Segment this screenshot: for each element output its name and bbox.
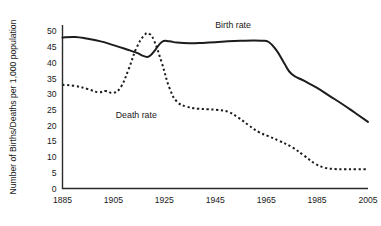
y-tick-label: 15 <box>47 136 57 146</box>
y-tick-label: 30 <box>47 89 57 99</box>
y-tick-label: 50 <box>47 26 57 36</box>
y-tick-label: 10 <box>47 152 57 162</box>
y-tick-label: 20 <box>47 121 57 131</box>
birth-rate-line <box>63 37 369 122</box>
y-tick-label: 5 <box>52 168 57 178</box>
x-axis-tick-labels: 1885190519251945196519852005 <box>53 195 378 205</box>
y-axis-title: Number of Births/Deaths per 1,000 popula… <box>8 19 18 194</box>
x-tick-label: 1885 <box>53 195 72 205</box>
y-tick-label: 45 <box>47 42 57 52</box>
death-rate-line <box>63 33 369 169</box>
birth-death-rate-chart: Number of Births/Deaths per 1,000 popula… <box>0 0 381 226</box>
x-tick-label: 1965 <box>257 195 276 205</box>
y-tick-label: 0 <box>52 184 57 194</box>
x-tick-label: 1945 <box>206 195 225 205</box>
series-label-death-rate: Death rate <box>116 110 157 120</box>
chart-axes <box>63 25 369 189</box>
x-tick-label: 1905 <box>104 195 123 205</box>
y-tick-label: 35 <box>47 74 57 84</box>
series-label-birth-rate: Birth rate <box>215 20 251 30</box>
y-axis-title-text: Number of Births/Deaths per 1,000 popula… <box>8 19 18 194</box>
y-tick-label: 40 <box>47 58 57 68</box>
x-tick-label: 2005 <box>358 195 377 205</box>
x-tick-label: 1985 <box>308 195 327 205</box>
chart-plot-area: Number of Births/Deaths per 1,000 popula… <box>0 0 381 226</box>
y-tick-label: 25 <box>47 105 57 115</box>
x-tick-label: 1925 <box>155 195 174 205</box>
y-axis-tick-labels: 05101520253035404550 <box>47 26 57 193</box>
